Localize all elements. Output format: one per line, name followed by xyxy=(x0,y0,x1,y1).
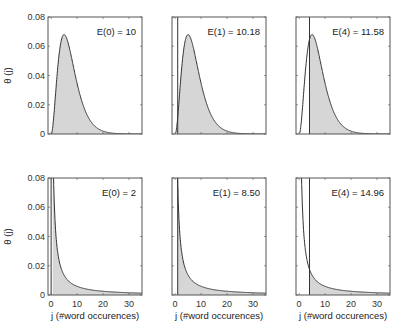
y-tick-label: 0.08 xyxy=(27,173,45,183)
subplot-1-1: 0102030j (#word occurences)E(1) = 8.50 xyxy=(172,173,266,321)
x-tick-label: 20 xyxy=(222,299,232,309)
x-tick-label: 10 xyxy=(72,299,82,309)
x-tick-label: 0 xyxy=(173,299,178,309)
figure: 00.020.040.060.08θ (j)E(0) = 10E(1) = 10… xyxy=(0,0,404,335)
y-tick-label: 0 xyxy=(40,129,45,139)
x-axis-label: j (#word occurences) xyxy=(174,310,263,321)
expectation-annotation: E(1) = 10.18 xyxy=(207,26,260,37)
shaded-area xyxy=(53,155,142,295)
x-tick-label: 0 xyxy=(49,299,54,309)
expectation-annotation: E(0) = 2 xyxy=(102,187,136,198)
x-tick-label: 20 xyxy=(98,299,108,309)
shaded-area xyxy=(310,35,391,134)
subplot-0-0: 00.020.040.060.08θ (j)E(0) = 10 xyxy=(2,12,142,139)
x-tick-label: 0 xyxy=(297,299,302,309)
y-tick-label: 0.06 xyxy=(27,41,45,51)
subplot-0-1: E(1) = 10.18 xyxy=(172,17,266,134)
y-tick-label: 0.02 xyxy=(27,100,45,110)
y-tick-label: 0.04 xyxy=(27,232,45,242)
x-tick-label: 20 xyxy=(346,299,356,309)
x-axis-label: j (#word occurences) xyxy=(50,310,139,321)
y-tick-label: 0.02 xyxy=(27,261,45,271)
x-tick-label: 10 xyxy=(196,299,206,309)
x-axis-label: j (#word occurences) xyxy=(298,310,387,321)
expectation-annotation: E(0) = 10 xyxy=(97,26,136,37)
x-tick-label: 10 xyxy=(320,299,330,309)
subplot-1-2: 0102030j (#word occurences)E(4) = 14.96 xyxy=(296,155,390,321)
subplot-0-2: E(4) = 11.58 xyxy=(296,17,390,134)
x-tick-label: 30 xyxy=(248,299,258,309)
density-curve xyxy=(301,155,390,294)
y-tick-label: 0.04 xyxy=(27,71,45,81)
x-tick-label: 30 xyxy=(124,299,134,309)
shaded-area xyxy=(178,184,266,295)
expectation-annotation: E(1) = 8.50 xyxy=(213,187,260,198)
y-tick-label: 0 xyxy=(40,290,45,300)
shaded-area xyxy=(51,35,142,134)
y-axis-label: θ (j) xyxy=(2,67,13,83)
shaded-area xyxy=(178,35,266,134)
expectation-annotation: E(4) = 14.96 xyxy=(331,187,384,198)
expectation-annotation: E(4) = 11.58 xyxy=(332,26,384,37)
subplot-1-0: 00.020.040.060.080102030j (#word occuren… xyxy=(2,155,142,321)
x-tick-label: 30 xyxy=(372,299,382,309)
density-curve xyxy=(53,155,142,294)
y-tick-label: 0.06 xyxy=(27,202,45,212)
y-tick-label: 0.08 xyxy=(27,12,45,22)
y-axis-label: θ (j) xyxy=(2,228,13,244)
